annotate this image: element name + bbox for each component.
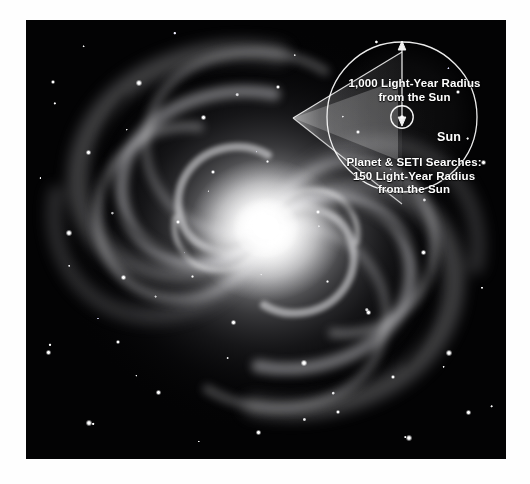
figure-canvas: 1,000 Light-Year Radius from the Sun Pla… xyxy=(0,0,530,484)
galaxy-photograph: 1,000 Light-Year Radius from the Sun Pla… xyxy=(26,20,506,459)
galaxy-vector xyxy=(26,20,506,459)
spiral-galaxy xyxy=(26,20,506,459)
